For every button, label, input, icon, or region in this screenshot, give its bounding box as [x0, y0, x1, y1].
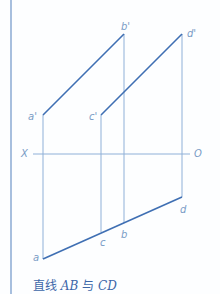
label-b-prime: b' — [121, 22, 130, 32]
caption-ab: AB — [61, 279, 78, 293]
label-b: b — [121, 230, 127, 240]
caption-cd: CD — [98, 279, 117, 293]
caption-mid: 与 — [82, 279, 94, 293]
line-a-prime-b-prime — [43, 34, 124, 115]
label-c: c — [100, 238, 106, 248]
label-a: a — [33, 253, 39, 263]
axis-label-x: X — [21, 149, 28, 159]
label-a-prime: a' — [28, 112, 37, 122]
line-ad — [43, 197, 182, 259]
label-d: d — [180, 205, 186, 215]
diagram-caption: 直线 AB 与 CD — [33, 276, 117, 293]
label-d-prime: d' — [187, 29, 196, 39]
axis-label-o: O — [194, 149, 202, 159]
caption-prefix: 直线 — [33, 279, 57, 293]
projection-diagram — [0, 0, 220, 294]
label-c-prime: c' — [89, 112, 97, 122]
line-c-prime-d-prime — [101, 34, 182, 115]
